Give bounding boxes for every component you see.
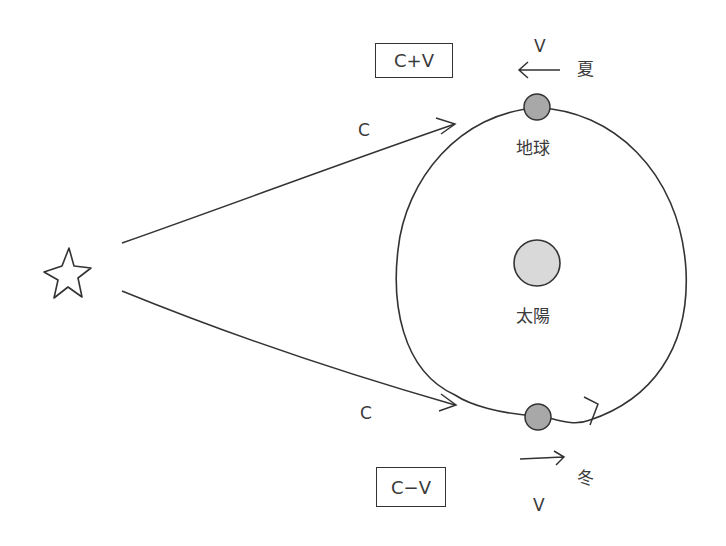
winter-label: 冬 (577, 470, 594, 487)
sun-label: 太陽 (516, 308, 550, 325)
velocity-arrow-summer-icon (519, 62, 560, 78)
velocity-arrow-winter-icon (520, 451, 564, 465)
diagram-canvas: C+V C−V C C V V 夏 冬 地球 太陽 (0, 0, 726, 546)
light-ray-bottom (122, 291, 455, 405)
summer-label: 夏 (577, 61, 594, 78)
c-minus-v-box: C−V (376, 467, 446, 507)
v-top-label: V (534, 38, 546, 55)
c-minus-v-label: C−V (391, 477, 431, 498)
earth-summer-circle (524, 94, 550, 120)
c-plus-v-label: C+V (394, 50, 434, 71)
diagram-graphics (0, 0, 726, 546)
c-top-label: C (358, 122, 370, 139)
v-bottom-label: V (533, 497, 545, 514)
star-icon (44, 248, 91, 298)
c-bottom-label: C (360, 405, 372, 422)
earth-winter-circle (525, 404, 551, 430)
light-ray-top (122, 124, 455, 243)
c-plus-v-box: C+V (375, 43, 453, 78)
earth-label: 地球 (516, 140, 550, 157)
sun-circle (514, 240, 560, 286)
arrowhead-top-icon (436, 118, 455, 134)
